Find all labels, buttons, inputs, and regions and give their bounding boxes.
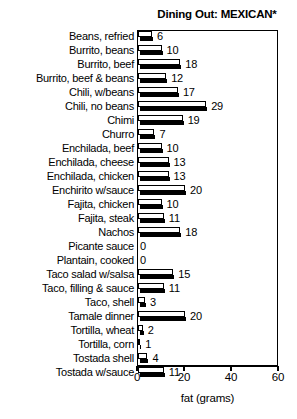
bar-category-label: Burrito, beef & beans [36, 72, 134, 86]
bar [138, 86, 178, 100]
bar-value-label: 7 [159, 127, 165, 141]
bar-value-label: 12 [171, 71, 183, 85]
bar-category-label: Taco, shell [85, 296, 134, 310]
bar-value-label: 15 [178, 267, 190, 281]
bar-shadow [140, 205, 163, 209]
bar-value-label: 13 [174, 155, 186, 169]
bar-row: Churro7 [0, 128, 297, 142]
bar [138, 226, 180, 240]
bar-row: Beans, refried6 [0, 30, 297, 44]
bar-value-label: 10 [167, 141, 179, 155]
bar-shadow [140, 163, 170, 167]
bar-value-label: 0 [140, 253, 146, 267]
bar-shadow [140, 219, 165, 223]
bar-row: Burrito, beans10 [0, 44, 297, 58]
bar-value-label: 18 [185, 225, 197, 239]
bar-value-label: 3 [150, 295, 156, 309]
bar-category-label: Burrito, beans [69, 44, 134, 58]
x-axis-line [137, 365, 278, 367]
x-tick-label: 0 [122, 371, 152, 383]
bar-row: Enchirito w/sauce20 [0, 184, 297, 198]
bar-row: Enchilada, beef10 [0, 142, 297, 156]
bar-row: Tamale dinner20 [0, 310, 297, 324]
bar [138, 310, 185, 324]
bar-value-label: 6 [157, 29, 163, 43]
bar-shadow [140, 51, 163, 55]
bar-value-label: 2 [148, 323, 154, 337]
bar-row: Fajita, chicken10 [0, 198, 297, 212]
bar-shadow [140, 65, 181, 69]
bar-shadow [140, 79, 167, 83]
bar [138, 282, 164, 296]
bar [138, 184, 185, 198]
bar-value-label: 1 [145, 337, 151, 351]
x-tick-label: 20 [169, 371, 199, 383]
bar-shadow [140, 121, 184, 125]
bar-row: Chili, no beans29 [0, 100, 297, 114]
bar-value-label: 20 [190, 183, 202, 197]
x-tick-label: 40 [216, 371, 246, 383]
bar [138, 100, 206, 114]
bar [138, 212, 164, 226]
bar-value-label: 20 [190, 309, 202, 323]
bar-category-label: Tortilla, corn [78, 338, 134, 352]
bar [138, 198, 162, 212]
bar-category-label: Nachos [98, 226, 134, 240]
bar-category-label: Plantain, cooked [57, 254, 134, 268]
bar-category-label: Enchirito w/sauce [52, 184, 134, 198]
bar-category-label: Churro [102, 128, 134, 142]
bar-value-label: 19 [188, 113, 200, 127]
bar-value-label: 11 [169, 281, 180, 295]
bar-value-label: 4 [152, 351, 158, 365]
bar [138, 44, 162, 58]
bar-row: Picante sauce0 [0, 240, 297, 254]
bar [138, 296, 145, 310]
bar-shadow [140, 303, 146, 307]
bar-row: Taco, filling & sauce11 [0, 282, 297, 296]
bar-shadow [140, 135, 155, 139]
bar-category-label: Tortilla, wheat [70, 324, 134, 338]
bar-row: Tortilla, corn1 [0, 338, 297, 352]
bar-row: Tostada shell4 [0, 352, 297, 366]
bar-shadow [140, 345, 141, 349]
bar-shadow [140, 177, 170, 181]
bar-row: Nachos18 [0, 226, 297, 240]
bar-rows: Beans, refried6Burrito, beans10Burrito, … [0, 30, 297, 366]
bar-shadow [140, 107, 207, 111]
bar-shadow [140, 317, 186, 321]
bar [138, 324, 143, 338]
bar-value-label: 29 [211, 99, 223, 113]
bar-category-label: Taco, filling & sauce [42, 282, 134, 296]
bar-category-label: Enchilada, chicken [47, 170, 134, 184]
x-axis-title: fat (grams) [137, 392, 278, 404]
bar-value-label: 13 [174, 169, 186, 183]
bar-row: Enchilada, chicken13 [0, 170, 297, 184]
bar-shadow [140, 275, 174, 279]
chart-title: Dining Out: MEXICAN* [137, 8, 297, 20]
bar-category-label: Beans, refried [69, 30, 134, 44]
bar [138, 72, 166, 86]
bar [138, 268, 173, 282]
bar-row: Burrito, beef & beans12 [0, 72, 297, 86]
bar-row: Burrito, beef18 [0, 58, 297, 72]
bar-shadow [140, 37, 153, 41]
bar [138, 240, 139, 254]
bar-category-label: Tostada shell [73, 352, 134, 366]
bar [138, 58, 180, 72]
bar-shadow [140, 191, 186, 195]
bar-category-label: Fajita, chicken [67, 198, 134, 212]
bar-category-label: Enchilada, cheese [48, 156, 134, 170]
bar-category-label: Chili, no beans [65, 100, 134, 114]
x-tick-label: 60 [263, 371, 293, 383]
bar [138, 128, 154, 142]
bar [138, 170, 169, 184]
bar [138, 254, 139, 268]
bar-category-label: Chimi [107, 114, 134, 128]
bar [138, 156, 169, 170]
bar-shadow [140, 233, 181, 237]
bar-category-label: Picante sauce [68, 240, 134, 254]
bar-value-label: 18 [185, 57, 197, 71]
bar [138, 352, 147, 366]
bar-row: Taco, shell3 [0, 296, 297, 310]
bar-category-label: Burrito, beef [77, 58, 134, 72]
